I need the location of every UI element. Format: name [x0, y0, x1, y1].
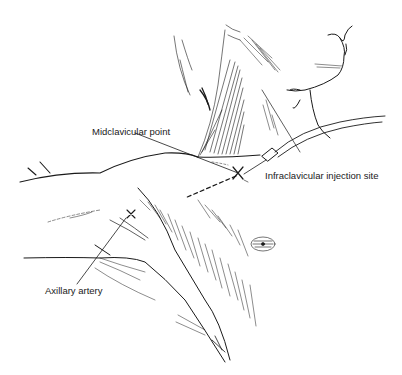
- neck-muscle-hatching: [174, 25, 244, 157]
- injection-site-x: [233, 167, 248, 182]
- dashed-needle-path: [185, 176, 236, 198]
- nipple: [251, 237, 275, 251]
- axillary-artery-x: [127, 210, 135, 218]
- leader-line-axillary: [77, 218, 126, 284]
- neck-side-hatching: [240, 36, 300, 152]
- catheter-tubing: [244, 116, 385, 174]
- label-midclavicular-point: Midclavicular point: [92, 127, 170, 137]
- label-infraclavicular-injection-site: Infraclavicular injection site: [265, 171, 379, 181]
- label-axillary-artery: Axillary artery: [45, 286, 103, 296]
- chest-hatching: [48, 188, 256, 360]
- anatomical-diagram: Midclavicular point Infraclavicular inje…: [0, 0, 402, 375]
- line-drawing: [0, 0, 402, 375]
